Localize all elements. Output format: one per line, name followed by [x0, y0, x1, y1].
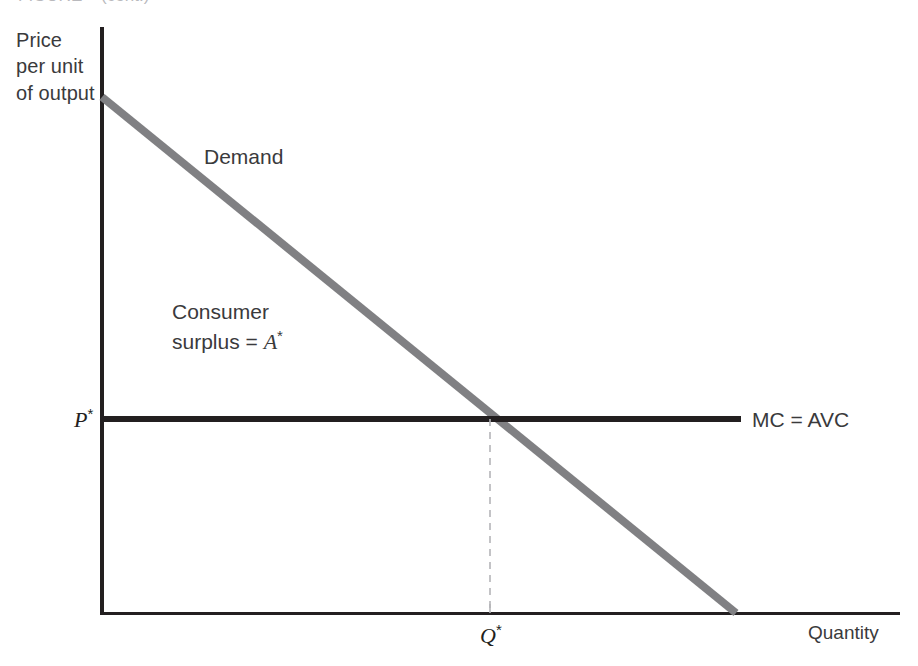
y-axis-title-line2: per unit [16, 55, 84, 77]
price-superscript: * [87, 405, 93, 422]
quantity-superscript: * [496, 621, 502, 638]
y-axis-title-line3: of output [16, 82, 95, 104]
price-axis-value-label: P* [74, 404, 93, 434]
consumer-surplus-symbol: A [264, 329, 277, 354]
mc-avc-curve-label: MC = AVC [752, 406, 849, 434]
y-axis-title: Priceper unitof output [16, 27, 95, 106]
chart-canvas [0, 0, 918, 666]
quantity-symbol: Q [480, 623, 496, 648]
quantity-axis-value-label: Q* [480, 620, 502, 650]
consumer-surplus-line1: Consumer [172, 300, 269, 323]
x-axis-title: Quantity [808, 620, 879, 645]
consumer-surplus-annotation: Consumersurplus = A* [172, 298, 283, 356]
consumer-surplus-line2-prefix: surplus = [172, 330, 264, 353]
demand-curve-label: Demand [204, 143, 283, 171]
consumer-surplus-figure: FIGURE (cont.) Priceper unitof output Qu… [0, 0, 918, 666]
consumer-surplus-superscript: * [277, 327, 283, 344]
price-symbol: P [74, 407, 87, 432]
y-axis-title-line1: Price [16, 29, 62, 51]
